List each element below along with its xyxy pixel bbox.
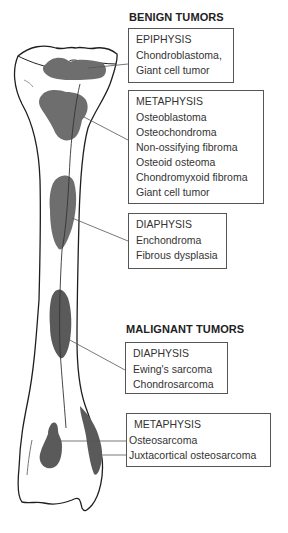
list-item: Chondrosarcoma: [133, 377, 227, 392]
list-item: Non-ossifying fibroma: [136, 140, 263, 155]
list-item: Juxtacortical osteosarcoma: [129, 448, 270, 463]
benign-epiphysis-box: EPIPHYSIS Chondroblastoma, Giant cell tu…: [128, 28, 234, 83]
list-item: Chondroblastoma,: [136, 48, 233, 63]
benign-metaphysis-box: METAPHYSIS Osteoblastoma Osteochondroma …: [128, 90, 264, 204]
box-title: METAPHYSIS: [136, 94, 263, 108]
list-item: Osteochondroma: [136, 125, 263, 140]
box-title: DIAPHYSIS: [133, 346, 227, 360]
list-item: Enchondroma: [136, 233, 226, 248]
list-item: Ewing's sarcoma: [133, 362, 227, 377]
malignant-metaphysis-box: METAPHYSIS Osteosarcoma Juxtacortical os…: [126, 413, 271, 467]
list-item: Osteoid osteoma: [136, 155, 263, 170]
malignant-tumors-heading: MALIGNANT TUMORS: [126, 323, 244, 335]
box-title: DIAPHYSIS: [136, 217, 226, 231]
list-item: Giant cell tumor: [136, 185, 263, 200]
list-item: Chondromyxoid fibroma: [136, 170, 263, 185]
list-item: Giant cell tumor: [136, 63, 233, 78]
benign-tumors-heading: BENIGN TUMORS: [129, 11, 224, 23]
box-title: METAPHYSIS: [129, 417, 270, 431]
list-item: Osteosarcoma: [129, 433, 270, 448]
list-item: Fibrous dysplasia: [136, 248, 226, 263]
list-item: Osteoblastoma: [136, 110, 263, 125]
box-title: EPIPHYSIS: [136, 32, 233, 46]
malignant-diaphysis-box: DIAPHYSIS Ewing's sarcoma Chondrosarcoma: [125, 342, 228, 394]
benign-diaphysis-box: DIAPHYSIS Enchondroma Fibrous dysplasia: [128, 213, 227, 269]
